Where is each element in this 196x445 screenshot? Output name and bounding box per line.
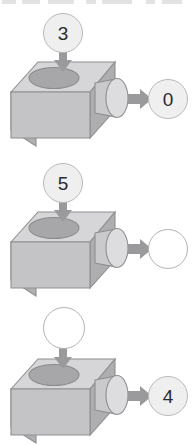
function-machine-3: 4 <box>0 297 196 445</box>
machine-2-output-token[interactable] <box>148 229 188 269</box>
machine-2-input-token[interactable]: 5 <box>43 163 83 203</box>
machine-3-output-value: 4 <box>163 387 174 406</box>
machine-1-output-value: 0 <box>163 90 174 109</box>
function-machine-2: 5 <box>0 150 196 298</box>
box-front-face <box>11 389 90 435</box>
output-spout-icon <box>106 79 128 118</box>
funnel-hole-icon <box>29 68 79 89</box>
machine-3-graphic <box>0 297 196 445</box>
machine-1-graphic <box>0 0 196 148</box>
output-spout-icon <box>106 376 128 415</box>
machine-body-group-3 <box>11 359 128 443</box>
box-front-face <box>11 242 90 288</box>
output-spout-icon <box>106 229 128 268</box>
machine-1-input-value: 3 <box>58 24 69 43</box>
machine-body-group-1 <box>11 62 128 146</box>
machine-1-input-token[interactable]: 3 <box>43 13 83 53</box>
worksheet-canvas: 3 0 5 <box>0 0 196 445</box>
box-front-face <box>11 92 90 138</box>
machine-2-input-value: 5 <box>58 174 69 193</box>
machine-1-output-token[interactable]: 0 <box>148 79 188 119</box>
funnel-hole-icon <box>29 365 79 386</box>
machine-3-output-token[interactable]: 4 <box>148 376 188 416</box>
machine-body-group-2 <box>11 212 128 296</box>
machine-2-graphic <box>0 150 196 298</box>
machine-3-input-token[interactable] <box>43 307 85 349</box>
funnel-hole-icon <box>29 218 79 239</box>
function-machine-1: 3 0 <box>0 0 196 148</box>
